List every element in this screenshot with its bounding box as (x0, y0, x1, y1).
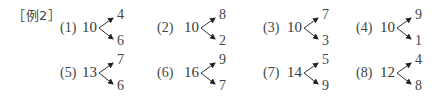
item-index: (4) (356, 20, 372, 36)
decomposition-item-6: (6) 16 9 7 (157, 53, 247, 93)
item-bottom-part: 7 (219, 78, 226, 94)
decomposition-item-3: (3) 10 7 3 (263, 8, 353, 48)
example-label: ［例2］ (12, 5, 61, 24)
item-total: 13 (82, 64, 97, 81)
item-top-part: 4 (415, 52, 422, 68)
split-arrows-icon (303, 53, 323, 93)
split-arrows-icon (200, 53, 220, 93)
item-bottom-part: 6 (117, 33, 124, 49)
item-bottom-part: 9 (322, 78, 329, 94)
item-index: (2) (157, 20, 173, 36)
decomposition-item-8: (8) 12 4 8 (356, 53, 443, 93)
item-total: 10 (184, 19, 199, 36)
decomposition-item-7: (7) 14 5 9 (263, 53, 353, 93)
decomposition-item-1: (1) 10 4 6 (60, 8, 150, 48)
decomposition-item-5: (5) 13 7 6 (60, 53, 150, 93)
item-top-part: 7 (322, 7, 329, 23)
split-arrows-icon (98, 53, 118, 93)
item-index: (3) (263, 20, 279, 36)
item-bottom-part: 2 (219, 33, 226, 49)
item-top-part: 7 (117, 52, 124, 68)
item-bottom-part: 8 (415, 78, 422, 94)
item-top-part: 9 (415, 7, 422, 23)
split-arrows-icon (200, 8, 220, 48)
item-total: 10 (82, 19, 97, 36)
item-top-part: 4 (117, 7, 124, 23)
item-index: (8) (356, 65, 372, 81)
decomposition-item-4: (4) 10 9 1 (356, 8, 443, 48)
item-index: (6) (157, 65, 173, 81)
split-arrows-icon (396, 53, 416, 93)
item-total: 12 (380, 64, 395, 81)
item-top-part: 8 (219, 7, 226, 23)
item-index: (7) (263, 65, 279, 81)
item-index: (1) (60, 20, 76, 36)
item-total: 14 (287, 64, 302, 81)
item-bottom-part: 6 (117, 78, 124, 94)
split-arrows-icon (303, 8, 323, 48)
item-bottom-part: 1 (415, 33, 422, 49)
item-total: 10 (287, 19, 302, 36)
item-total: 10 (380, 19, 395, 36)
item-top-part: 9 (219, 52, 226, 68)
item-bottom-part: 3 (322, 33, 329, 49)
item-top-part: 5 (322, 52, 329, 68)
item-total: 16 (184, 64, 199, 81)
split-arrows-icon (396, 8, 416, 48)
decomposition-item-2: (2) 10 8 2 (157, 8, 247, 48)
item-index: (5) (60, 65, 76, 81)
split-arrows-icon (98, 8, 118, 48)
